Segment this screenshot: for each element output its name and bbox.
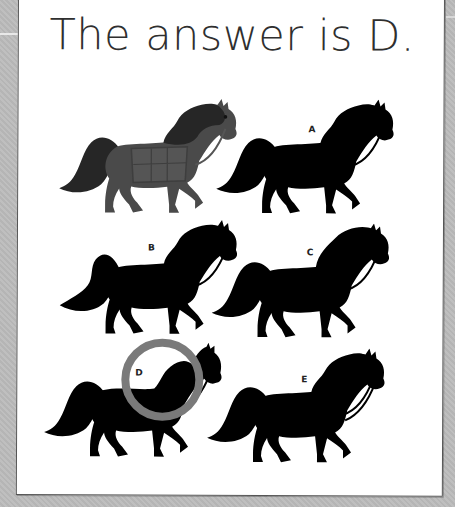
option-c-label: C — [307, 247, 314, 257]
answer-title: The answer is D. — [19, 6, 446, 64]
option-a-horse[interactable] — [216, 99, 397, 220]
option-b-label: B — [148, 243, 155, 253]
option-e-label: E — [301, 374, 307, 384]
horse-silhouette-icon — [216, 99, 397, 220]
answer-highlight-circle — [121, 338, 203, 420]
puzzle-card: The answer is D. A B — [16, 0, 445, 497]
horse-icon — [59, 98, 240, 219]
horse-silhouette-icon — [211, 223, 392, 344]
background-edge-left — [0, 33, 19, 35]
option-c-horse[interactable] — [211, 223, 392, 344]
option-a-label: A — [308, 124, 315, 134]
background-edge-right — [446, 16, 455, 18]
reference-horse — [59, 98, 240, 219]
horse-silhouette-icon — [207, 348, 388, 469]
option-e-horse[interactable] — [207, 348, 388, 469]
